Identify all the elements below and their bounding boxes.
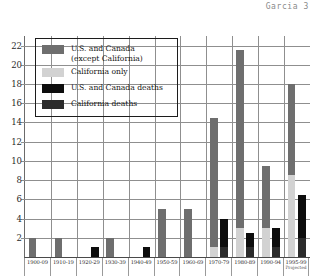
bar-cases <box>55 238 63 257</box>
y-axis-tick-label: 4 <box>17 214 22 223</box>
bar-group <box>232 36 258 257</box>
bar-deaths <box>298 195 306 257</box>
y-axis-tick-label: 12 <box>11 137 22 146</box>
x-axis-label-cell: 1970-79 <box>205 258 231 276</box>
legend-item-us_canada_deaths: U.S. and Canada deaths <box>42 83 171 95</box>
x-axis-tick-label: 1910-19 <box>51 259 76 265</box>
bar-cases <box>236 50 244 257</box>
chart-legend: U.S. and Canada (except California)Calif… <box>35 38 178 117</box>
y-axis-tick-label: 10 <box>11 157 22 166</box>
legend-label-california_deaths: California deaths <box>71 99 137 109</box>
y-axis-tick-label: 8 <box>17 176 22 185</box>
x-axis-label-cell: 1910-19 <box>50 258 76 276</box>
x-axis-tick-label: 1960-69 <box>180 259 205 265</box>
y-axis-tick-label: 14 <box>11 118 22 127</box>
x-axis-tick-label: 1920-29 <box>77 259 102 265</box>
x-axis-label-cell: 1950-59 <box>154 258 180 276</box>
legend-label-california_only: California only <box>71 67 128 77</box>
bar-segment-california-only <box>236 228 244 257</box>
x-axis-label-cell: 1980-89 <box>231 258 257 276</box>
x-axis-tick-label: 1990-94 <box>258 259 283 265</box>
legend-label-us_canada_except_ca: U.S. and Canada (except California) <box>71 44 143 63</box>
legend-label-us_canada_deaths: U.S. and Canada deaths <box>71 83 163 93</box>
x-axis-label-cell: 1990-94 <box>257 258 283 276</box>
legend-swatch-california_only <box>42 68 64 77</box>
y-axis-tick-label: 2 <box>17 234 22 243</box>
bar-chart-figure: 246810121416182022 1900-091910-191920-29… <box>0 26 317 276</box>
bar-segment-california-deaths <box>298 238 306 257</box>
x-axis-label-cell: 1930-39 <box>102 258 128 276</box>
bar-segment-california-only <box>288 175 296 257</box>
bar-deaths <box>246 233 254 257</box>
x-axis-tick-label: 1940-49 <box>129 259 154 265</box>
y-axis-tick-label: 22 <box>11 41 22 50</box>
legend-item-california_deaths: California deaths <box>42 99 171 111</box>
y-axis-tick-label: 6 <box>17 195 22 204</box>
bar-deaths <box>143 247 151 257</box>
y-axis-tick-label: 16 <box>11 99 22 108</box>
bar-group <box>258 36 284 257</box>
bar-cases <box>210 118 218 257</box>
x-axis-label-cell: 1940-49 <box>128 258 154 276</box>
bar-cases <box>29 238 37 257</box>
legend-item-california_only: California only <box>42 67 171 79</box>
x-axis-tick-label: 1980-89 <box>232 259 257 265</box>
legend-swatch-us_canada_except_ca <box>42 45 64 54</box>
bar-cases <box>158 209 166 257</box>
x-axis-label-cell: 1995-99Projected <box>283 258 309 276</box>
bar-deaths <box>272 228 280 257</box>
bar-cases <box>262 166 270 257</box>
y-axis-tick-label: 18 <box>11 80 22 89</box>
bar-segment-california-only <box>210 247 218 257</box>
legend-item-us_canada_except_ca: U.S. and Canada (except California) <box>42 44 171 63</box>
bar-segment-california-only <box>262 228 270 257</box>
bar-group <box>180 36 206 257</box>
bar-segment-california-deaths <box>246 247 254 257</box>
x-axis-tick-sublabel: Projected <box>284 265 308 271</box>
x-axis-tick-label: 1970-79 <box>206 259 231 265</box>
bar-segment-california-deaths <box>272 247 280 257</box>
x-axis-tick-label: 1930-39 <box>103 259 128 265</box>
bar-deaths <box>220 219 228 257</box>
x-axis-labels: 1900-091910-191920-291930-391940-491950-… <box>24 258 310 276</box>
bar-group <box>284 36 310 257</box>
x-axis-label-cell: 1960-69 <box>179 258 205 276</box>
bar-cases <box>184 209 192 257</box>
bar-group <box>206 36 232 257</box>
x-axis-tick-label: 1950-59 <box>155 259 180 265</box>
bar-cases <box>106 238 114 257</box>
bar-segment-california-deaths <box>220 247 228 257</box>
x-axis-tick-label: 1900-09 <box>25 259 50 265</box>
y-axis-tick-label: 20 <box>11 61 22 70</box>
legend-swatch-california_deaths <box>42 100 64 109</box>
page-header: Garcia 3 <box>266 2 309 11</box>
bar-cases <box>288 84 296 257</box>
legend-swatch-us_canada_deaths <box>42 84 64 93</box>
x-axis-label-cell: 1900-09 <box>24 258 50 276</box>
bar-deaths <box>91 247 99 257</box>
x-axis-label-cell: 1920-29 <box>76 258 102 276</box>
